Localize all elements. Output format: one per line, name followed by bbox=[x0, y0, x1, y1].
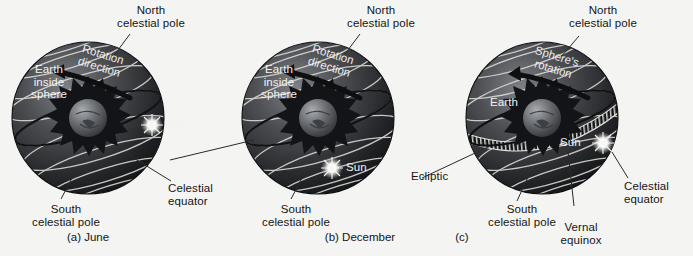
label-vernal-equinox: Vernal equinox bbox=[550, 221, 612, 246]
label-south-celestial-pole: South celestial pole bbox=[238, 203, 354, 228]
label-earth-inside-sphere: Earth inside sphere bbox=[18, 63, 80, 101]
panel-vernal-equinox-stage: North celestial pole South celestial pol… bbox=[442, 0, 693, 256]
label-sun: Sun bbox=[164, 118, 196, 131]
panel-december-stage: North celestial pole South celestial pol… bbox=[232, 0, 442, 256]
label-north-celestial-pole: North celestial pole bbox=[548, 4, 658, 29]
caption-june: (a) June bbox=[28, 231, 148, 244]
label-north-celestial-pole: North celestial pole bbox=[326, 4, 436, 29]
label-sun: Sun bbox=[346, 161, 378, 174]
caption-equinox: (c) bbox=[432, 231, 492, 244]
label-celestial-equator: Celestial equator bbox=[168, 182, 242, 207]
label-earth: Earth bbox=[482, 96, 526, 109]
sun-icon bbox=[592, 132, 614, 154]
panel-december: North celestial pole South celestial pol… bbox=[232, 0, 442, 256]
panel-june-stage: North celestial pole South celestial pol… bbox=[0, 0, 232, 256]
sun-icon bbox=[321, 157, 343, 179]
label-north-celestial-pole: North celestial pole bbox=[96, 4, 206, 29]
label-earth-inside-sphere: Earth inside sphere bbox=[248, 63, 310, 101]
label-ecliptic: Ecliptic bbox=[411, 170, 469, 183]
label-sun: Sun bbox=[560, 136, 592, 149]
label-south-celestial-pole: South celestial pole bbox=[8, 203, 124, 228]
caption-december: (b) December bbox=[290, 231, 430, 244]
panel-vernal-equinox: North celestial pole South celestial pol… bbox=[442, 0, 693, 256]
panel-june: North celestial pole South celestial pol… bbox=[0, 0, 232, 256]
label-celestial-equator: Celestial equator bbox=[624, 180, 693, 205]
sun-icon bbox=[141, 114, 163, 136]
